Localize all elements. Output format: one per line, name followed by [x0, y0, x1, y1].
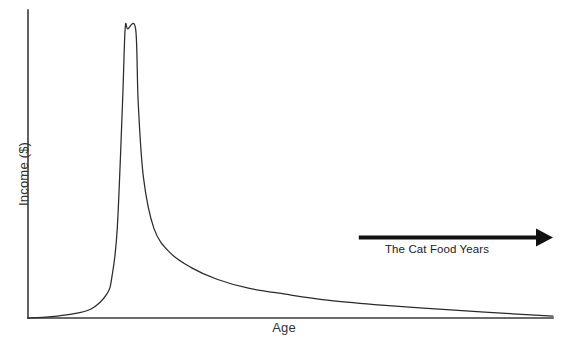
y-axis-label: Income ($) [16, 142, 31, 206]
cat-food-years-annotation-label: The Cat Food Years [385, 243, 489, 255]
income-curve [28, 23, 553, 318]
income-vs-age-chart: Income ($) Age The Cat Food Years [0, 0, 568, 342]
chart-canvas [0, 0, 568, 342]
x-axis-label: Age [0, 320, 568, 335]
y-axis-label-container: Income ($) [0, 110, 18, 210]
cat-food-years-arrow-head [536, 229, 553, 247]
